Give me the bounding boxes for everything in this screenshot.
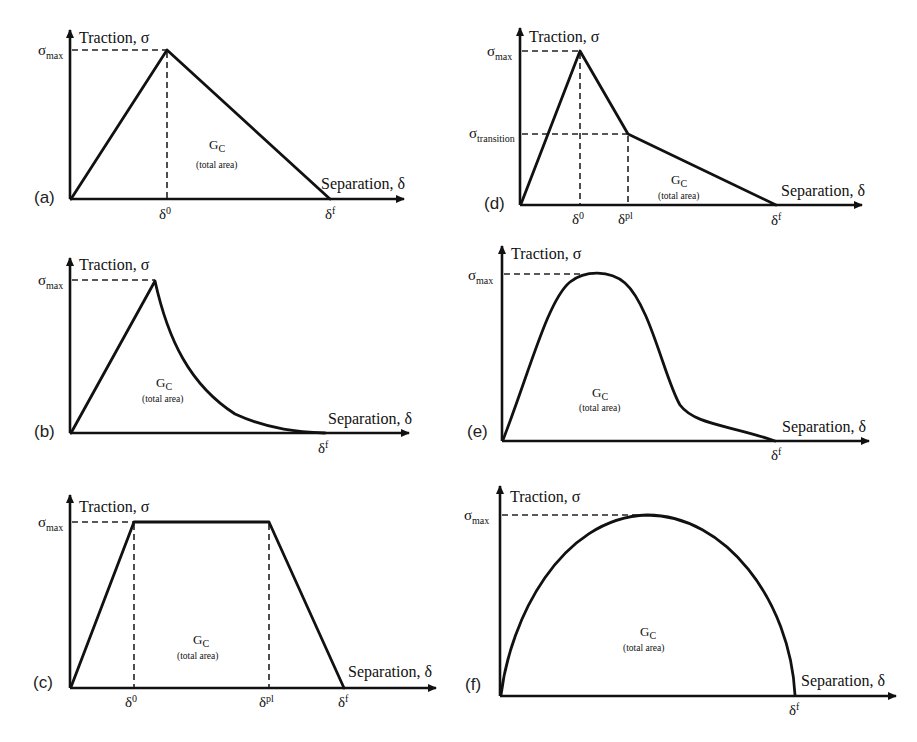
deltaf-label: δf <box>318 439 329 456</box>
sigma-max-label: σmax <box>38 272 63 291</box>
total-area-note: (total area) <box>623 643 664 654</box>
total-area-note: (total area) <box>142 394 183 405</box>
panel-label-d: (d) <box>484 194 505 213</box>
x-axis-label: Separation, δ <box>348 663 432 681</box>
gc-label: GC <box>156 375 172 392</box>
delta0-label: δ0 <box>159 205 171 222</box>
sigma-max-label: σmax <box>38 514 63 533</box>
deltapl-label: δpl <box>618 210 633 227</box>
x-axis-label: Separation, δ <box>782 418 866 436</box>
sigma-max-label: σmax <box>464 507 489 526</box>
y-axis-label: Traction, σ <box>79 498 150 515</box>
panel-d: Traction, σ Separation, δ σmax σtransiti… <box>469 28 865 228</box>
panel-label-b: (b) <box>34 422 55 441</box>
sigma-max-label: σmax <box>468 267 493 286</box>
deltaf-label: δf <box>771 211 782 228</box>
deltaf-label: δf <box>771 446 782 463</box>
panel-label-e: (e) <box>467 422 488 441</box>
delta0-label: δ0 <box>125 693 137 710</box>
y-axis-label: Traction, σ <box>79 29 150 46</box>
deltaf-label: δf <box>338 693 349 710</box>
x-axis-label: Separation, δ <box>321 175 405 193</box>
deltapl-label: δpl <box>259 693 274 710</box>
tsl-curve <box>503 273 775 441</box>
total-area-note: (total area) <box>196 160 237 171</box>
panel-b: Traction, σ Separation, δ σmax δf GC (to… <box>34 256 412 456</box>
x-axis-label: Separation, δ <box>781 182 865 200</box>
sigma-max-label: σmax <box>38 42 63 61</box>
gc-label: GC <box>671 172 687 189</box>
delta0-label: δ0 <box>572 210 584 227</box>
y-axis-label: Traction, σ <box>529 28 600 45</box>
tsl-curve <box>521 51 776 205</box>
y-axis-label: Traction, σ <box>79 256 150 273</box>
y-axis-label: Traction, σ <box>511 245 582 262</box>
tsl-curve <box>71 50 330 199</box>
deltaf-label: δf <box>325 205 336 222</box>
x-axis-label: Separation, δ <box>801 672 885 690</box>
sigma-max-label: σmax <box>487 43 512 62</box>
total-area-note: (total area) <box>658 191 699 202</box>
gc-label: GC <box>592 385 608 402</box>
tsl-curve <box>501 515 795 695</box>
tsl-curve <box>71 522 344 688</box>
panel-label-a: (a) <box>34 188 55 207</box>
deltaf-label: δf <box>789 701 800 718</box>
panel-label-f: (f) <box>465 675 481 694</box>
panel-c: Traction, σ Separation, δ σmax δ0 δpl δf… <box>33 495 436 710</box>
y-axis-label: Traction, σ <box>510 488 581 505</box>
panel-a: Traction, σ Separation, δ σmax δ0 δf GC … <box>34 29 405 222</box>
gc-label: GC <box>640 624 656 641</box>
sigma-transition-label: σtransition <box>469 125 515 144</box>
gc-label: GC <box>193 632 209 649</box>
x-axis-label: Separation, δ <box>328 410 412 428</box>
panel-e: Traction, σ Separation, δ σmax δf GC (to… <box>467 245 869 463</box>
traction-separation-figure: Traction, σ Separation, δ σmax δ0 δf GC … <box>0 0 917 742</box>
panel-f: Traction, σ Separation, δ σmax δf GC (to… <box>464 486 896 718</box>
gc-label: GC <box>209 137 225 154</box>
total-area-note: (total area) <box>579 403 620 414</box>
total-area-note: (total area) <box>177 651 218 662</box>
tsl-curve <box>71 281 325 433</box>
panel-label-c: (c) <box>33 673 53 692</box>
